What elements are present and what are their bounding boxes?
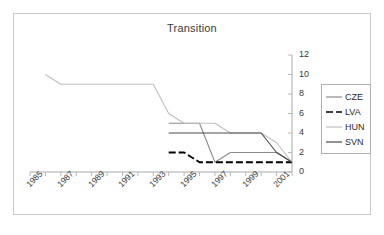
- legend-label-lva: LVA: [343, 107, 361, 117]
- series-layer: [45, 75, 292, 163]
- legend-item-hun[interactable]: HUN: [325, 119, 367, 134]
- legend-swatch-hun-icon: [325, 122, 343, 132]
- y-axis-tick-label: 0: [299, 166, 317, 176]
- legend-swatch-svn-icon: [325, 137, 343, 147]
- axes-layer: [30, 55, 292, 176]
- chart-legend: CZE LVA HUN SVN: [321, 84, 371, 154]
- legend-item-svn[interactable]: SVN: [325, 134, 367, 149]
- legend-label-cze: CZE: [343, 92, 363, 102]
- legend-item-cze[interactable]: CZE: [325, 89, 367, 104]
- y-axis-tick-label: 10: [299, 69, 317, 79]
- y-axis-tick-label: 6: [299, 108, 317, 118]
- series-line-lva: [169, 153, 292, 163]
- series-line-hun: [45, 75, 292, 163]
- y-axis-tick-label: 2: [299, 147, 317, 157]
- legend-label-hun: HUN: [343, 122, 365, 132]
- chart-container: Transition 024681012 1985198719891991199…: [0, 0, 384, 235]
- legend-swatch-lva-icon: [325, 107, 343, 117]
- y-axis-tick-label: 12: [299, 49, 317, 59]
- legend-label-svn: SVN: [343, 137, 364, 147]
- y-axis-tick-label: 4: [299, 127, 317, 137]
- series-line-svn: [169, 133, 292, 162]
- legend-item-lva[interactable]: LVA: [325, 104, 367, 119]
- series-line-cze: [169, 123, 292, 162]
- legend-swatch-cze-icon: [325, 92, 343, 102]
- y-axis-tick-label: 8: [299, 88, 317, 98]
